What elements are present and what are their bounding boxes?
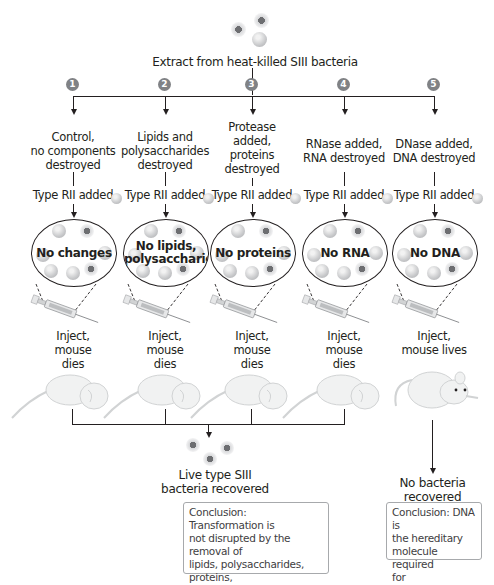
arrow-down-icon	[432, 109, 438, 115]
type-rii-added-label: Type RII added	[207, 188, 297, 202]
type-rii-added-label: Type RII added	[120, 188, 210, 202]
connector-line	[252, 96, 253, 110]
connector-line	[344, 409, 345, 425]
bacteria-cell	[337, 266, 351, 280]
dead-mouse-icon	[279, 370, 389, 420]
outcome-label: Inject,mousedies	[304, 329, 384, 371]
arrow-down-icon	[206, 432, 212, 438]
treatment-label: Proteaseadded,proteinsdestroyed	[202, 120, 302, 176]
type-rii-added-label: Type RII added	[299, 188, 389, 202]
bacteria-cell	[44, 264, 58, 278]
bacteria-cell	[413, 224, 427, 238]
arrow-down-icon	[163, 109, 169, 115]
connector-line	[73, 96, 435, 97]
syringe-icon	[299, 280, 389, 330]
treatment-label: DNase added,DNA destroyed	[384, 137, 484, 165]
rii-cell-icon	[472, 193, 483, 204]
right-conclusion-box: Conclusion: DNA is the hereditary molecu…	[386, 502, 482, 560]
connector-line	[434, 172, 435, 186]
bacteria-cell	[445, 262, 459, 276]
culture-dish: No RNA	[302, 219, 388, 287]
syringe-icon	[207, 280, 297, 330]
connector-line	[432, 420, 433, 470]
step-number-badge: 4	[337, 78, 350, 91]
syringe-icon	[28, 280, 118, 330]
connector-line	[165, 96, 166, 110]
connector-line	[73, 96, 74, 110]
connector-line	[344, 172, 345, 186]
bacteria-cell	[144, 224, 158, 238]
result-label: No RNA	[303, 247, 387, 260]
siii-cell	[254, 13, 269, 28]
result-label: No proteins	[211, 247, 295, 260]
connector-line	[434, 96, 435, 110]
bacteria-cell	[158, 266, 172, 280]
bacteria-cell	[84, 262, 98, 276]
step-number-badge: 2	[158, 78, 171, 91]
bacteria-cell	[223, 264, 237, 278]
outcome-label: Inject,mousedies	[212, 329, 292, 371]
outcome-label: Inject,mouse lives	[394, 329, 474, 357]
siii-cell	[252, 32, 267, 47]
bacteria-cell	[405, 264, 419, 278]
culture-dish: No lipids,polysaccharides	[123, 219, 209, 287]
culture-dish: No DNA	[392, 219, 478, 287]
treatment-label: Control,no componentsdestroyed	[23, 130, 123, 172]
arrow-down-icon	[432, 212, 438, 218]
right-result-label: No bacteria recovered	[385, 476, 480, 504]
connector-line	[73, 172, 74, 186]
arrow-down-icon	[430, 468, 436, 474]
syringe-icon	[389, 280, 479, 330]
connector-line	[344, 96, 345, 110]
step-number-badge: 1	[66, 78, 79, 91]
connector-line	[72, 409, 73, 425]
bacteria-cell	[231, 224, 245, 238]
result-label: No lipids,polysaccharides	[124, 240, 208, 266]
outcome-label: Inject,mousedies	[33, 329, 113, 371]
result-label: No changes	[32, 247, 116, 260]
bacteria-cell	[66, 266, 80, 280]
arrow-down-icon	[342, 109, 348, 115]
bacteria-cell	[80, 224, 94, 238]
arrow-down-icon	[250, 109, 256, 115]
bacteria-cell	[351, 224, 365, 238]
siii-cell	[231, 22, 246, 37]
culture-dish: No changes	[31, 219, 117, 287]
bacteria-cell	[263, 262, 277, 276]
arrow-down-icon	[163, 212, 169, 218]
culture-dish: No proteins	[210, 219, 296, 287]
result-label: No DNA	[393, 247, 477, 260]
bacteria-cell	[315, 264, 329, 278]
treatment-label: RNase added,RNA destroyed	[294, 137, 394, 165]
type-rii-added-label: Type RII added	[28, 188, 118, 202]
left-conclusion-box: Conclusion: Transformation is not disrup…	[183, 502, 329, 574]
siii-cell	[186, 438, 200, 452]
connector-line	[165, 409, 166, 425]
connector-line	[165, 172, 166, 186]
siii-cell	[203, 452, 217, 466]
bacteria-cell	[172, 224, 186, 238]
bacteria-cell	[441, 224, 455, 238]
bacteria-cell	[427, 266, 441, 280]
arrow-down-icon	[250, 212, 256, 218]
bacteria-cell	[245, 266, 259, 280]
syringe-icon	[120, 280, 210, 330]
live-mouse-icon	[384, 362, 484, 422]
bacteria-cell	[355, 262, 369, 276]
arrow-down-icon	[71, 212, 77, 218]
bacteria-cell	[323, 224, 337, 238]
connector-line	[252, 178, 253, 186]
arrow-down-icon	[71, 109, 77, 115]
siii-cell	[220, 441, 234, 455]
outcome-label: Inject,mousedies	[125, 329, 205, 371]
step-number-badge: 3	[245, 78, 258, 91]
left-result-label: Live type SIII bacteria recovered	[150, 468, 280, 496]
bacteria-cell	[136, 264, 150, 278]
arrow-down-icon	[342, 212, 348, 218]
connector-line	[251, 409, 252, 425]
extract-title: Extract from heat-killed SIII bacteria	[140, 55, 370, 69]
bacteria-cell	[259, 224, 273, 238]
bacteria-cell	[52, 224, 66, 238]
step-number-badge: 5	[427, 78, 440, 91]
type-rii-added-label: Type RII added	[389, 188, 479, 202]
